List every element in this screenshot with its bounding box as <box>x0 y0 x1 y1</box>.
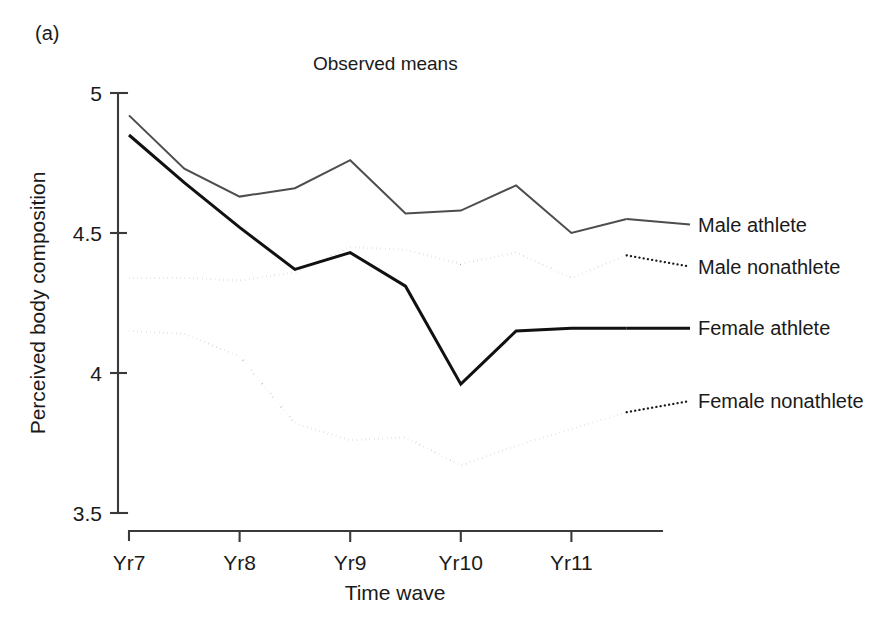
x-tick-label: Yr10 <box>439 551 483 574</box>
y-axis-title: Perceived body composition <box>26 172 49 435</box>
y-tick-label: 3.5 <box>73 502 102 525</box>
series-label-female-nonathlete: Female nonathlete <box>698 390 864 412</box>
chart-title: Observed means <box>313 53 458 74</box>
x-axis-title: Time wave <box>345 581 446 604</box>
y-tick-label: 4.5 <box>73 222 102 245</box>
figure-panel-a: (a) Observed means 54.543.5 Perceived bo… <box>0 0 871 625</box>
x-tick-label: Yr11 <box>550 551 593 574</box>
series-label-female-athlete: Female athlete <box>698 317 830 339</box>
x-tick-label: Yr7 <box>113 551 146 574</box>
panel-label: (a) <box>35 22 59 44</box>
y-tick-label: 5 <box>90 82 102 105</box>
series-label-male-nonathlete: Male nonathlete <box>698 256 840 278</box>
y-tick-label: 4 <box>90 362 102 385</box>
x-tick-label: Yr8 <box>223 551 256 574</box>
series-label-male-athlete: Male athlete <box>698 214 807 236</box>
x-tick-label: Yr9 <box>334 551 367 574</box>
